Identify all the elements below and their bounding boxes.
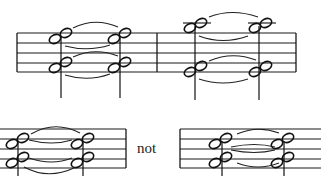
chord-bl-2 bbox=[70, 132, 95, 176]
chord-m1-1 bbox=[48, 27, 73, 98]
chord-m1-2 bbox=[107, 27, 132, 98]
ties-m1 bbox=[65, 22, 118, 78]
chord-bl-1 bbox=[5, 132, 30, 176]
chord-br-2 bbox=[270, 132, 295, 176]
chord-br-1 bbox=[208, 132, 233, 176]
notation-figure bbox=[0, 0, 321, 176]
chord-m2-1 bbox=[183, 17, 211, 100]
bottom-right-staff bbox=[180, 129, 321, 168]
separator-text: not bbox=[137, 140, 156, 157]
